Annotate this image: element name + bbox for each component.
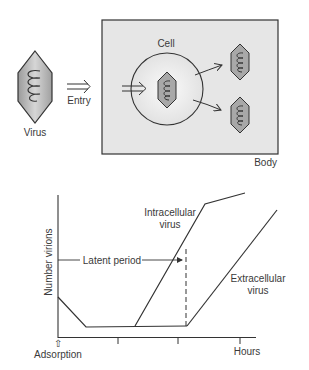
intracellular-label-line1: Intracellular (144, 207, 196, 218)
extracellular-curve (187, 210, 277, 326)
extracellular-label-line1: Extracellular (230, 273, 286, 284)
extracellular-label-line2: virus (247, 285, 268, 296)
intracellular-label-line2: virus (159, 219, 180, 230)
cell-label: Cell (157, 38, 174, 49)
y-axis-label: Number virions (43, 228, 54, 295)
baseline-curve (58, 297, 187, 327)
latent-period-label: Latent period (83, 255, 141, 266)
body-label: Body (254, 157, 277, 168)
growth-curve-chart: Number virions ⇧ Adsorption Hours Latent… (34, 193, 286, 360)
top-panel: Virus Entry Body Cell (18, 20, 278, 168)
virus-icon (18, 51, 52, 123)
virus-replication-diagram: Virus Entry Body Cell (0, 0, 309, 370)
x-axis-label: Hours (234, 346, 261, 357)
adsorption-label: Adsorption (34, 349, 82, 360)
virus-label: Virus (24, 127, 47, 138)
entry-double-arrow-icon (67, 80, 90, 93)
adsorption-arrow-icon: ⇧ (54, 338, 62, 349)
entry-label: Entry (67, 95, 90, 106)
